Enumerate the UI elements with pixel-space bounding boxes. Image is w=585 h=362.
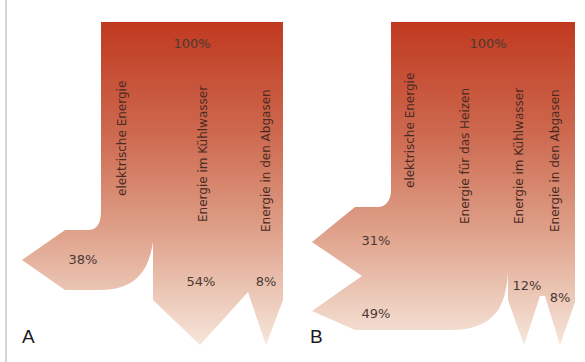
flow-label-a-coolingwater: Energie im Kühlwasser xyxy=(196,86,210,222)
percent-b-exhaust: 8% xyxy=(550,290,571,305)
input-percent-b: 100% xyxy=(469,36,506,51)
percent-b-coolingwater: 12% xyxy=(513,278,542,293)
percent-b-heating: 49% xyxy=(362,306,391,321)
percent-a-exhaust: 8% xyxy=(256,274,277,289)
panel-a: 100% elektrische Energie Energie im Kühl… xyxy=(22,22,283,347)
flow-label-b-heating: Energie für das Heizen xyxy=(458,88,472,224)
percent-a-coolingwater: 54% xyxy=(187,274,216,289)
flow-label-b-electric: elektrische Energie xyxy=(403,73,417,188)
panel-b: 100% elektrische Energie Energie für das… xyxy=(310,22,575,347)
panel-letter-a: A xyxy=(22,326,35,347)
flow-label-b-coolingwater: Energie im Kühlwasser xyxy=(512,88,526,224)
flow-label-a-exhaust: Energie in den Abgasen xyxy=(259,89,273,232)
flow-label-b-exhaust: Energie in den Abgasen xyxy=(548,89,562,232)
percent-a-electric: 38% xyxy=(69,252,98,267)
sankey-shape-a xyxy=(22,22,283,345)
flow-label-a-electric: elektrische Energie xyxy=(115,81,129,196)
input-percent-a: 100% xyxy=(173,36,210,51)
percent-b-electric: 31% xyxy=(362,233,391,248)
energy-flow-diagrams: 100% elektrische Energie Energie im Kühl… xyxy=(0,0,585,362)
panel-letter-b: B xyxy=(310,326,323,347)
sankey-shape-b xyxy=(312,22,575,345)
